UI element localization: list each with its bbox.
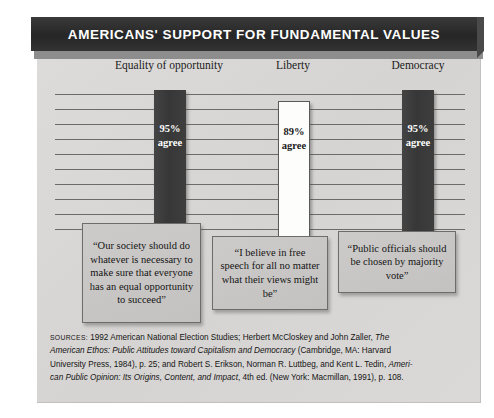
sources-line-1: SOURCES: 1992 American National Election… — [50, 331, 468, 344]
column-header-equality: Equality of opportunity — [115, 59, 223, 71]
sources-label: SOURCES: — [50, 334, 88, 341]
sources-line-4-italic: can Public Opinion: Its Origins, Content… — [50, 373, 238, 382]
quote-text-democracy: “Public officials should be chosen by ma… — [345, 242, 449, 283]
sources-line-4-text: , 4th ed. (New York: Macmillan, 1991), p… — [238, 373, 404, 382]
bar-value-label-liberty: 89% agree — [279, 125, 309, 153]
figure-panel: Equality of opportunity Liberty Democrac… — [37, 59, 481, 403]
column-header-liberty: Liberty — [276, 59, 310, 71]
bar-value-label-democracy: 95% agree — [402, 122, 434, 150]
column-headers: Equality of opportunity Liberty Democrac… — [37, 59, 480, 79]
bar-equality-of-opportunity: 95% agree — [154, 90, 186, 242]
banner-bevel — [477, 17, 484, 58]
sources-line-1-italic: The — [375, 333, 389, 342]
quote-text-equality: “Our society should do whatever is neces… — [89, 239, 194, 307]
quote-text-liberty: “I believe in free speech for all no mat… — [219, 246, 321, 301]
sources-line-4: can Public Opinion: Its Origins, Content… — [50, 371, 468, 384]
bar-percent-liberty: 89% — [279, 125, 309, 139]
sources-line-2: American Ethos: Public Attitudes toward … — [50, 344, 468, 357]
bar-value-label-equality: 95% agree — [154, 122, 186, 150]
sources-line-3-text: University Press, 1984), p. 25; and Robe… — [50, 360, 388, 369]
sources-note: SOURCES: 1992 American National Election… — [50, 331, 468, 384]
chart-plot-area: 95% agree 89% agree 95% agree — [37, 90, 480, 242]
sources-line-3-italic: Ameri- — [388, 360, 412, 369]
quote-box-equality: “Our society should do whatever is neces… — [82, 223, 201, 323]
banner-face: AMERICANS' SUPPORT FOR FUNDAMENTAL VALUE… — [31, 17, 477, 51]
bar-democracy: 95% agree — [402, 90, 434, 242]
sources-line-3: University Press, 1984), p. 25; and Robe… — [50, 358, 468, 371]
quote-box-liberty: “I believe in free speech for all no mat… — [212, 236, 328, 310]
sources-line-1-text: 1992 American National Election Studies;… — [88, 333, 375, 342]
column-header-democracy: Democracy — [392, 59, 445, 71]
bar-agree-democracy: agree — [402, 136, 434, 150]
bar-agree-equality: agree — [154, 136, 186, 150]
sources-line-2-text: (Cambridge, MA: Harvard — [295, 346, 391, 355]
page-title: AMERICANS' SUPPORT FOR FUNDAMENTAL VALUE… — [68, 27, 440, 42]
bar-agree-liberty: agree — [279, 139, 309, 153]
title-banner: AMERICANS' SUPPORT FOR FUNDAMENTAL VALUE… — [31, 17, 483, 59]
bar-liberty: 89% agree — [278, 101, 310, 242]
bar-percent-equality: 95% — [154, 122, 186, 136]
sources-line-2-italic: American Ethos: Public Attitudes toward … — [50, 346, 295, 355]
bar-percent-democracy: 95% — [402, 122, 434, 136]
quote-box-democracy: “Public officials should be chosen by ma… — [338, 231, 456, 293]
